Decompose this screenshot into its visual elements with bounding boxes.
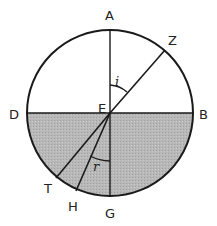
refraction-diagram: A Z D E B T H G i r	[0, 0, 217, 226]
label-E: E	[98, 102, 106, 115]
angle-r-label: r	[93, 160, 99, 173]
label-H: H	[68, 200, 78, 213]
label-D: D	[9, 108, 19, 121]
label-G: G	[105, 207, 115, 220]
label-B: B	[199, 108, 208, 121]
diagram-canvas	[0, 0, 217, 226]
label-Z: Z	[168, 34, 177, 47]
label-A: A	[105, 9, 114, 22]
label-T: T	[44, 182, 52, 195]
angle-i-label: i	[115, 75, 119, 88]
